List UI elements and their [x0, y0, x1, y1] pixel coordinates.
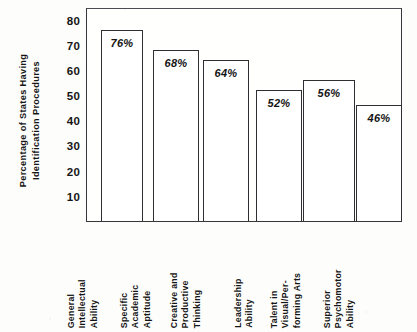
x-axis-label-line: Productive	[180, 272, 191, 328]
bar: 52%	[256, 90, 302, 221]
x-axis-label-line: Intellectual	[77, 279, 88, 328]
x-axis-label-line: General	[66, 279, 77, 328]
bar-chart: Percentage of States Having Identificati…	[0, 0, 417, 332]
x-axis-label-line: Ability	[89, 279, 100, 328]
y-axis-tick-80: 80	[50, 15, 80, 27]
bar-value-label: 68%	[154, 57, 198, 69]
x-axis-label-line: Psychomotor	[333, 269, 344, 328]
bar: 64%	[203, 60, 249, 221]
y-axis-tick-40: 40	[50, 115, 80, 127]
bar-value-label: 64%	[204, 67, 248, 79]
bar: 46%	[356, 105, 402, 221]
y-axis-tick-10: 10	[50, 191, 80, 203]
bar-value-label: 52%	[257, 97, 301, 109]
x-axis-label-line: Leadership	[233, 279, 244, 328]
bar-value-label: 46%	[357, 112, 401, 124]
x-axis-label: SuperiorPsychomotorAbility	[322, 269, 356, 328]
x-axis-label-line: Superior	[322, 269, 333, 328]
x-axis-label-line: Academic	[130, 284, 141, 328]
x-axis-label: Creative andProductiveThinking	[169, 272, 203, 328]
bar: 56%	[303, 80, 355, 221]
x-axis-label-line: Ability	[245, 279, 256, 328]
x-axis-label-line: Specific	[119, 284, 130, 328]
x-axis-label-line: Visual/Per-	[280, 273, 291, 328]
y-axis-tick-labels: 1020304050607080	[50, 8, 80, 222]
x-axis-label-line: Creative and	[169, 272, 180, 328]
x-axis-label-line: Aptitude	[142, 284, 153, 328]
x-axis-label-line: Talent in	[269, 273, 280, 328]
bar-value-label: 56%	[304, 87, 354, 99]
x-axis-label-line: forming Arts	[292, 273, 303, 328]
y-axis-title-line-1: Percentage of States Having	[17, 16, 30, 226]
x-axis-label: GeneralIntellectualAbility	[66, 279, 100, 328]
x-axis-label: LeadershipAbility	[233, 279, 256, 328]
y-axis-tick-20: 20	[50, 166, 80, 178]
x-axis-label-line: Thinking	[192, 272, 203, 328]
y-axis-tick-70: 70	[50, 40, 80, 52]
bar: 76%	[101, 30, 143, 221]
x-axis-label-line: Ability	[345, 269, 356, 328]
x-axis-label: Talent inVisual/Per-forming Arts	[269, 273, 303, 328]
y-axis-tick-50: 50	[50, 90, 80, 102]
x-axis-category-labels: GeneralIntellectualAbilitySpecificAcadem…	[0, 222, 417, 332]
y-axis-title-line-2: Identification Procedures	[29, 16, 42, 226]
bars-layer: 76%68%64%52%56%46%	[87, 9, 401, 221]
bar-value-label: 76%	[102, 37, 142, 49]
x-axis-label: SpecificAcademicAptitude	[119, 284, 153, 328]
bar: 68%	[153, 50, 199, 221]
plot-area: 76%68%64%52%56%46%	[86, 8, 402, 222]
y-axis-title: Percentage of States Having Identificati…	[17, 16, 42, 226]
y-axis-tick-60: 60	[50, 65, 80, 77]
y-axis-tick-30: 30	[50, 140, 80, 152]
